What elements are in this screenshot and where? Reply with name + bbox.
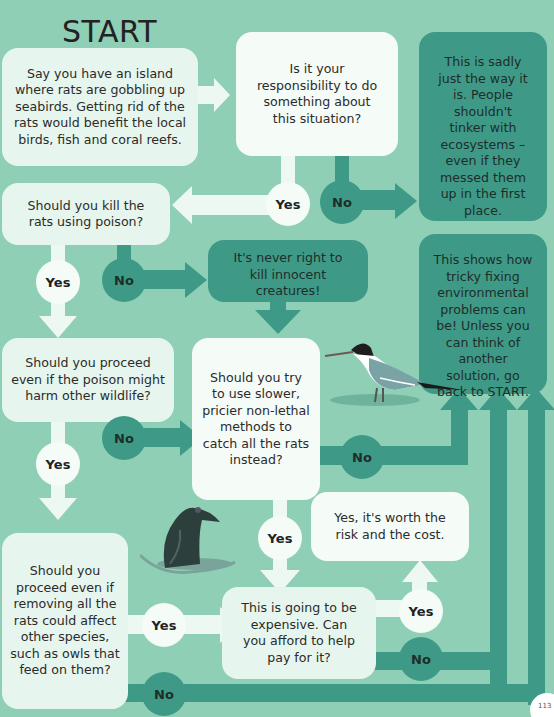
no-badge-harm-wildlife: No	[102, 416, 146, 460]
no-badge-affect-species: No	[142, 672, 186, 716]
arrow-head-down	[39, 498, 77, 520]
node-expensive-text: This is going to be expensive. Can you a…	[230, 600, 368, 666]
yes-badge-affect-species: Yes	[142, 603, 186, 647]
no-badge-kill-poison: No	[102, 258, 146, 302]
node-harm-wildlife: Should you proceed even if the poison mi…	[2, 338, 174, 422]
node-responsibility-text: Is it your responsibility to do somethin…	[244, 61, 390, 127]
arrow-head-right	[214, 78, 230, 112]
arrow-head-down	[39, 316, 77, 338]
node-worth-risk-text: Yes, it's worth the risk and the cost.	[319, 510, 461, 543]
node-kill-poison: Should you kill the rats using poison?	[2, 183, 170, 245]
arrow-head-right	[395, 183, 417, 219]
yes-badge-non-lethal: Yes	[258, 516, 302, 560]
start-title: START	[62, 14, 157, 49]
node-non-lethal-text: Should you try to use slower, pricier no…	[200, 370, 312, 469]
no-badge-expensive: No	[399, 637, 443, 681]
node-kill-poison-text: Should you kill the rats using poison?	[10, 198, 162, 231]
connector-affect-no-up	[528, 405, 545, 705]
rat-illustration	[140, 500, 240, 580]
node-sadly-way: This is sadly just the way it is. People…	[419, 32, 547, 221]
node-intro-text: Say you have an island where rats are go…	[10, 66, 190, 149]
yes-badge-responsibility: Yes	[266, 182, 310, 226]
connector-expensive-no-up	[490, 405, 507, 685]
node-sadly-way-text: This is sadly just the way it is. People…	[427, 54, 539, 219]
no-badge-non-lethal: No	[340, 435, 384, 479]
node-affect-species-text: Should you proceed even if removing all …	[10, 563, 120, 679]
node-never-right-text: It's never right to kill innocent creatu…	[216, 250, 360, 300]
yes-badge-kill-poison: Yes	[36, 260, 80, 304]
seabird-illustration	[325, 330, 465, 410]
arrow-head-left	[172, 186, 192, 224]
node-responsibility: Is it your responsibility to do somethin…	[236, 32, 398, 156]
yes-badge-harm-wildlife: Yes	[36, 442, 80, 486]
no-badge-responsibility: No	[320, 180, 364, 224]
arrow-head-up	[402, 560, 438, 582]
node-affect-species: Should you proceed even if removing all …	[2, 533, 128, 709]
arrow-head-right	[185, 262, 207, 298]
node-never-right: It's never right to kill innocent creatu…	[208, 240, 368, 302]
node-harm-wildlife-text: Should you proceed even if the poison mi…	[10, 355, 166, 405]
node-non-lethal: Should you try to use slower, pricier no…	[192, 338, 320, 500]
node-worth-risk: Yes, it's worth the risk and the cost.	[311, 492, 469, 561]
node-intro: Say you have an island where rats are go…	[2, 48, 198, 166]
arrow-head-down	[255, 310, 301, 334]
yes-badge-expensive: Yes	[399, 589, 443, 633]
node-expensive: This is going to be expensive. Can you a…	[222, 587, 376, 679]
